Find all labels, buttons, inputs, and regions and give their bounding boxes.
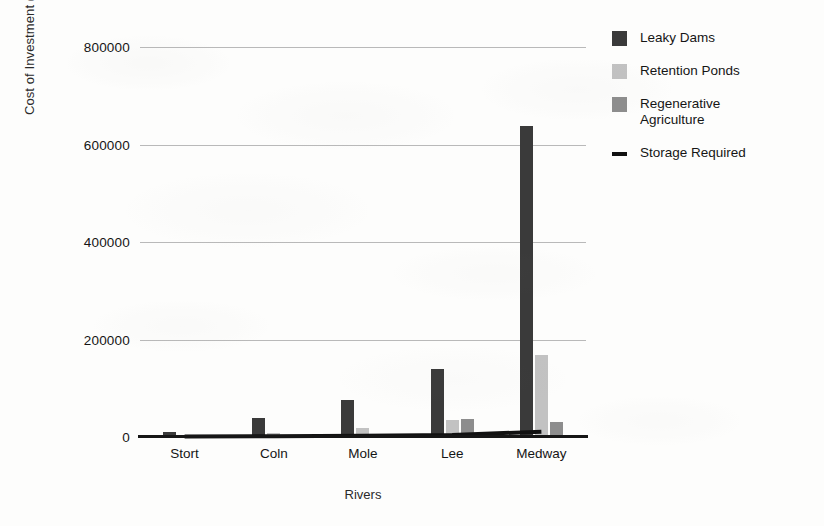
legend-item[interactable]: Storage Required	[612, 145, 812, 161]
legend-color-swatch-icon	[612, 97, 627, 112]
y-axis-title: Cost of Investment (£)	[22, 0, 37, 155]
y-axis-tick-label: 400000	[84, 235, 130, 250]
legend-item[interactable]: Leaky Dams	[612, 30, 812, 46]
chart-legend: Leaky DamsRetention PondsRegenerative Ag…	[612, 30, 812, 178]
legend-line-swatch-icon	[612, 152, 627, 156]
x-axis-tick-label: Coln	[260, 446, 288, 461]
y-axis-tick-label: 0	[122, 430, 130, 445]
legend-item-label: Storage Required	[640, 145, 746, 161]
y-axis-tick-label: 800000	[84, 40, 130, 55]
y-axis-tick-label: 200000	[84, 332, 130, 347]
bar-chart: Cost of Investment (£) 02000004000006000…	[0, 0, 824, 526]
legend-item[interactable]: Regenerative Agriculture	[612, 96, 812, 128]
x-axis-baseline	[138, 435, 588, 438]
x-axis-tick-label: Medway	[516, 446, 566, 461]
legend-item-label: Leaky Dams	[640, 30, 715, 46]
x-axis-title: Rivers	[140, 487, 586, 502]
legend-item[interactable]: Retention Ponds	[612, 63, 812, 79]
y-axis-tick-label: 600000	[84, 137, 130, 152]
plot-area: 0200000400000600000800000 StortColnMoleL…	[140, 47, 586, 437]
legend-color-swatch-icon	[612, 31, 627, 46]
legend-item-label: Retention Ponds	[640, 63, 740, 79]
legend-color-swatch-icon	[612, 64, 627, 79]
x-axis-tick-label: Mole	[348, 446, 377, 461]
x-axis-tick-label: Lee	[441, 446, 464, 461]
y-axis-title-label: Cost of Investment (£)	[22, 0, 37, 155]
legend-item-label: Regenerative Agriculture	[640, 96, 720, 128]
x-axis-tick-label: Stort	[170, 446, 199, 461]
storage-required-line	[140, 47, 586, 437]
